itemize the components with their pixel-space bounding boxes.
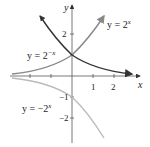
label-neg-2-pow-x: y = −2x — [22, 102, 52, 114]
x-tick-2: 2 — [111, 82, 116, 92]
curve-2-pow-x — [12, 16, 104, 74]
label-2-pow-neg-x: y = 2−x — [27, 49, 56, 61]
y-axis-label: y — [63, 2, 69, 13]
y-tick-2: 2 — [62, 29, 67, 39]
y-tick-m2: −2 — [59, 113, 69, 123]
y-tick-m1: −1 — [59, 92, 69, 102]
x-axis-label: x — [137, 79, 143, 90]
label-2-pow-x: y = 2x — [107, 18, 132, 30]
x-tick-1: 1 — [91, 82, 96, 92]
exponential-graph: y x 2 −1 −2 1 2 y = 2x y = 2−x y = −2x — [0, 0, 150, 147]
